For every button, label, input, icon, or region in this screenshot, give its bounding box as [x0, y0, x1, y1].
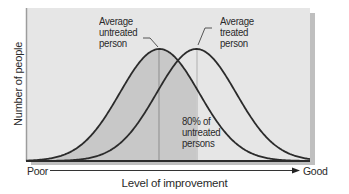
treated-annotation-line3: person	[220, 38, 254, 49]
treated-annotation: Average treated person	[220, 16, 254, 49]
untreated-annotation: Average untreated person	[99, 16, 137, 49]
x-axis-label: Level of improvement	[0, 177, 349, 189]
x-axis-good-label: Good	[303, 165, 328, 177]
effect-size-figure: Number of people Average untreated perso…	[0, 0, 349, 194]
x-axis-poor-label: Poor	[27, 165, 48, 177]
distribution-plot	[0, 0, 349, 194]
x-axis-arrowhead-icon	[292, 168, 300, 174]
y-axis-label: Number of people	[12, 46, 24, 126]
overlap-annotation: 80% of untreated persons	[182, 116, 220, 149]
overlap-annotation-line3: persons	[182, 138, 220, 149]
untreated-annotation-line3: person	[99, 38, 137, 49]
